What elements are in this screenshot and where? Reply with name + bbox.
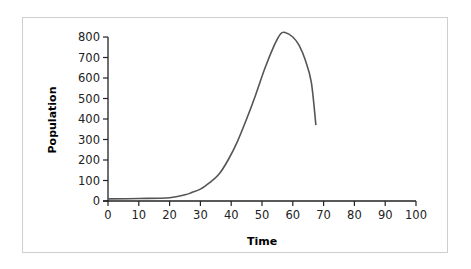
y-axis: 0100200300400500600700800 [78,30,108,208]
y-tick-label: 200 [78,153,100,167]
population-curve [108,32,316,199]
x-tick-label: 70 [316,208,331,222]
y-tick-label: 500 [78,92,100,106]
x-tick-label: 0 [104,208,111,222]
x-tick-label: 10 [131,208,146,222]
y-tick-label: 600 [78,71,100,85]
x-axis-title: Time [247,235,277,248]
x-tick-label: 80 [347,208,362,222]
y-tick-label: 700 [78,51,100,65]
x-tick-label: 20 [162,208,177,222]
x-tick-label: 30 [193,208,208,222]
y-axis-title: Population [46,87,59,154]
y-tick-label: 400 [78,112,100,126]
line-chart: 0100200300400500600700800 01020304050607… [0,0,471,269]
x-tick-label: 90 [378,208,393,222]
x-tick-label: 60 [285,208,300,222]
x-tick-label: 50 [255,208,270,222]
y-tick-label: 800 [78,30,100,44]
x-tick-label: 100 [405,208,427,222]
x-tick-label: 40 [224,208,239,222]
x-axis: 0102030405060708090100 [103,201,427,222]
y-tick-label: 300 [78,133,100,147]
y-tick-label: 0 [93,194,100,208]
y-tick-label: 100 [78,174,100,188]
